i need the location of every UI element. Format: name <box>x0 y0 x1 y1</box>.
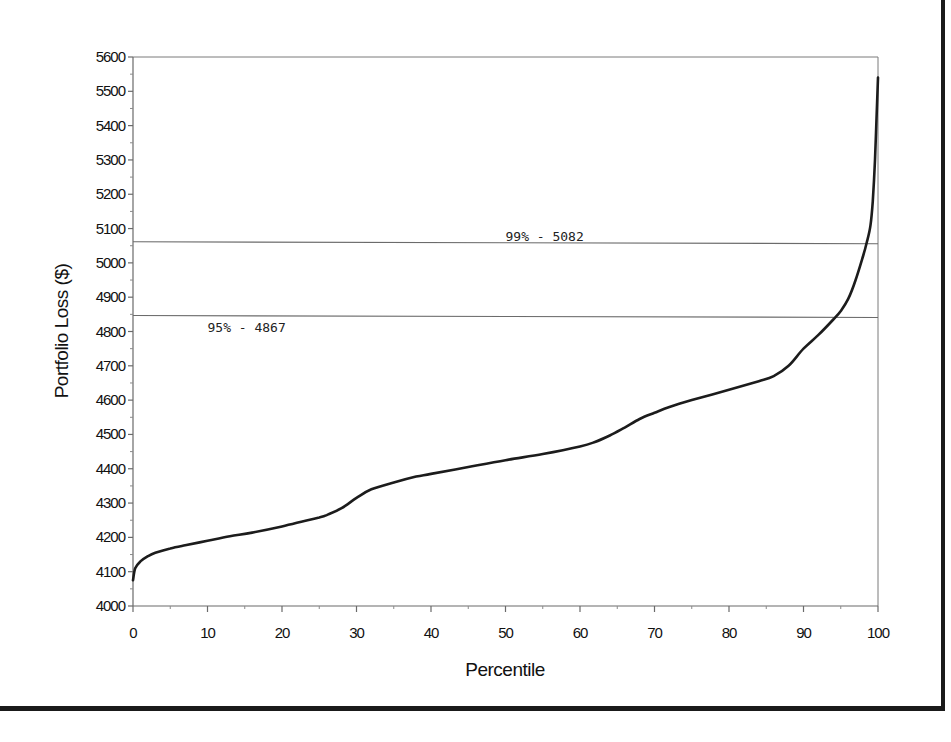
x-tick-label: 40 <box>424 624 439 641</box>
x-tick-label: 10 <box>200 624 215 641</box>
y-tick-label: 5400 <box>96 117 126 134</box>
y-tick-label: 4700 <box>96 357 126 374</box>
x-tick-label: 80 <box>722 624 737 641</box>
x-tick-label: 0 <box>129 624 137 641</box>
y-tick-label: 5100 <box>96 220 126 237</box>
ref-label-99: 99% - 5082 <box>506 229 584 244</box>
x-axis: 0102030405060708090100 <box>129 606 889 641</box>
y-tick-label: 4000 <box>96 597 126 614</box>
ref-label-95: 95% - 4867 <box>208 320 286 335</box>
reference-lines: 99% - 5082 95% - 4867 <box>133 229 878 335</box>
y-tick-label: 4500 <box>96 425 126 442</box>
y-tick-label: 4100 <box>96 563 126 580</box>
x-tick-label: 50 <box>498 624 513 641</box>
y-tick-label: 4200 <box>96 528 126 545</box>
y-tick-label: 4300 <box>96 494 126 511</box>
x-tick-label: 90 <box>796 624 811 641</box>
x-tick-label: 20 <box>275 624 290 641</box>
y-axis-title: Portfolio Loss ($) <box>51 264 72 399</box>
y-tick-label: 5300 <box>96 151 126 168</box>
y-tick-label: 5500 <box>96 82 126 99</box>
y-tick-label: 5200 <box>96 185 126 202</box>
y-tick-label: 5600 <box>96 48 126 65</box>
x-tick-label: 100 <box>867 624 890 641</box>
x-tick-label: 70 <box>647 624 662 641</box>
y-tick-label: 4800 <box>96 323 126 340</box>
y-axis: 4000410042004300440045004600470048004900… <box>96 48 133 614</box>
chart: 4000410042004300440045004600470048004900… <box>0 0 951 742</box>
x-tick-label: 60 <box>573 624 588 641</box>
x-axis-title: Percentile <box>465 659 545 680</box>
x-tick-label: 30 <box>349 624 364 641</box>
y-tick-label: 4900 <box>96 288 126 305</box>
y-tick-label: 5000 <box>96 254 126 271</box>
y-tick-label: 4400 <box>96 460 126 477</box>
ref-line-95 <box>133 316 878 318</box>
y-tick-label: 4600 <box>96 391 126 408</box>
